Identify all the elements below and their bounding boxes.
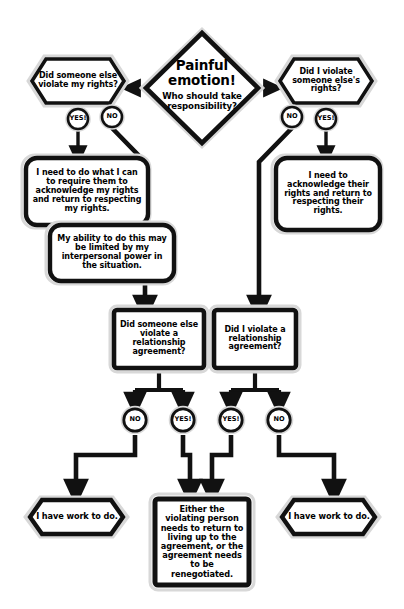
mid-right-outline: [214, 310, 296, 368]
right-no-circle[interactable]: [282, 107, 302, 127]
final-left-outline: [30, 500, 123, 534]
left-outcome-outline: [26, 158, 148, 225]
flowchart-canvas: Painful emotion! Who should take respons…: [0, 0, 404, 609]
root-diamond-outline: [146, 33, 258, 143]
final-center-outline: [155, 499, 249, 585]
left-note-box[interactable]: [46, 222, 176, 284]
final-right-hexagon[interactable]: [277, 497, 380, 537]
connector-group: [76, 88, 334, 492]
right-question-hexagon[interactable]: [276, 56, 376, 106]
connector-yes-to-final-center-a: [183, 435, 190, 492]
midleft-no-circle[interactable]: [124, 409, 146, 431]
final-left-hexagon[interactable]: [25, 497, 128, 537]
left-hexagon-outline: [32, 59, 124, 103]
right-hexagon-outline: [280, 59, 372, 103]
mid-left-question-box[interactable]: [110, 306, 208, 372]
left-note-outline: [50, 225, 174, 281]
midleft-yes-circle[interactable]: [172, 409, 194, 431]
left-yes-circle[interactable]: [68, 109, 88, 129]
mid-left-outline: [114, 310, 204, 368]
midright-yes-circle[interactable]: [220, 409, 242, 431]
connector-no-to-final-right: [279, 435, 334, 492]
left-outcome-box[interactable]: [22, 155, 150, 228]
right-outcome-outline: [276, 158, 380, 230]
left-no-circle[interactable]: [102, 107, 122, 127]
final-center-box[interactable]: [150, 494, 254, 590]
right-yes-circle[interactable]: [316, 109, 336, 129]
connector-yes-to-final-center-b: [212, 435, 231, 492]
midright-no-circle[interactable]: [268, 409, 290, 431]
flowchart-shapes-and-connectors: [0, 0, 404, 609]
connector-no-to-final-left: [76, 435, 135, 492]
left-question-hexagon[interactable]: [28, 56, 128, 106]
right-outcome-box[interactable]: [272, 155, 382, 233]
mid-right-question-box[interactable]: [210, 306, 300, 372]
answer-circle-group-mid: [122, 407, 292, 433]
final-right-outline: [282, 500, 375, 534]
root-diamond-node[interactable]: [141, 29, 263, 147]
